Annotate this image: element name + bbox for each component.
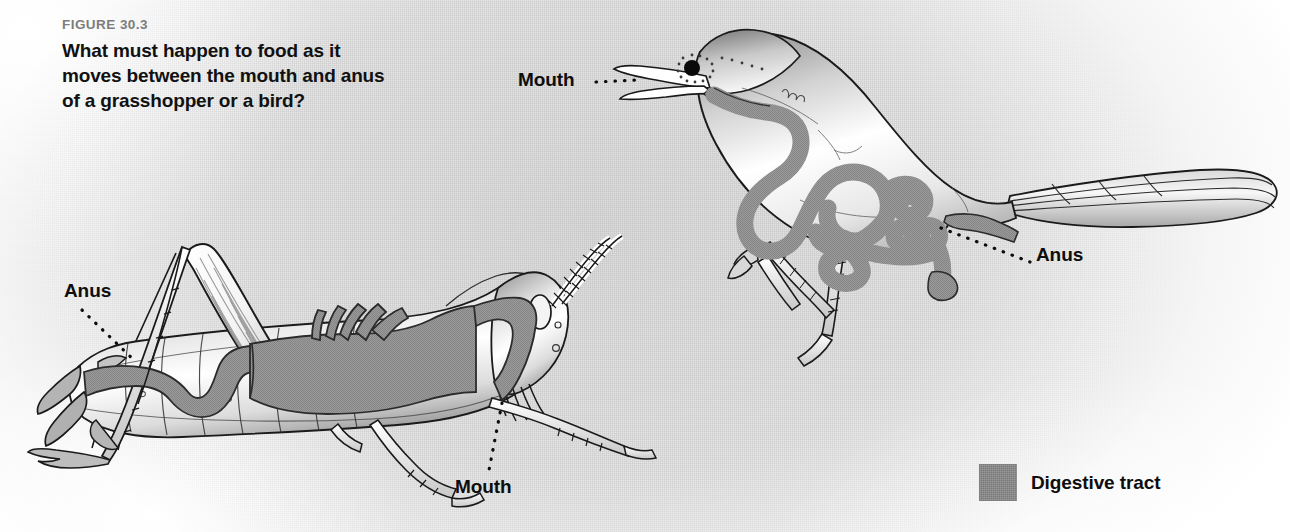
callout-label-grasshopper-anus: Anus	[64, 281, 111, 300]
leader-bird-mouth	[596, 80, 636, 82]
grasshopper-antennae	[549, 236, 622, 308]
figure-artwork	[0, 0, 1290, 532]
grasshopper-hind-tarsus	[28, 449, 110, 468]
legend-label-digestive-tract: Digestive tract	[1031, 472, 1160, 494]
legend-swatch-digestive-tract	[979, 464, 1017, 501]
callout-label-grasshopper-mouth: Mouth	[455, 477, 511, 496]
legend: Digestive tract	[979, 464, 1160, 501]
leader-hopper-mouth	[489, 403, 502, 470]
figure-container: FIGURE 30.3 What must happen to food as …	[0, 0, 1290, 532]
callout-label-bird-anus: Anus	[1036, 245, 1083, 264]
bird-eye	[684, 60, 700, 76]
bird-illustration	[614, 30, 1277, 366]
legend-swatch-texture	[979, 464, 1017, 501]
callout-label-bird-mouth: Mouth	[518, 70, 574, 89]
grasshopper-illustration	[28, 236, 656, 507]
